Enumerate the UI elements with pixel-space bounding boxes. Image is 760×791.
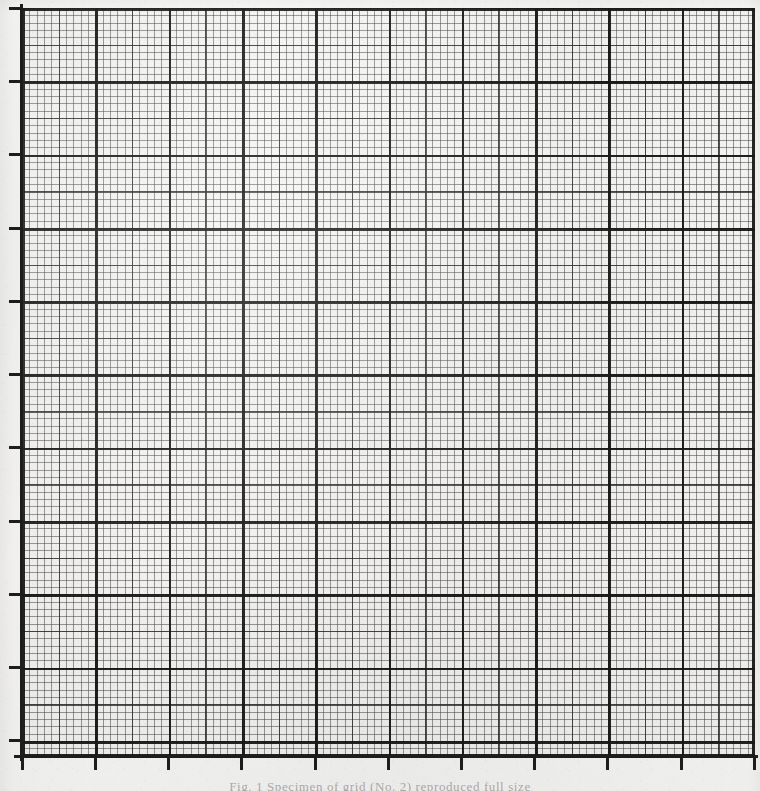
y-axis-tick	[9, 520, 21, 523]
x-axis-tick	[460, 757, 463, 770]
x-axis-tick	[680, 757, 683, 770]
y-axis-tick	[9, 153, 21, 156]
x-axis-tick	[606, 757, 609, 770]
x-axis-tick	[533, 757, 536, 770]
y-axis-tick	[9, 373, 21, 376]
x-axis-tick	[387, 757, 390, 770]
graph-paper-page: Fig. 1 Specimen of grid (No. 2) reproduc…	[0, 0, 760, 791]
y-axis-tick	[9, 446, 21, 449]
x-axis-tick	[753, 757, 756, 770]
x-axis-line	[14, 755, 758, 758]
x-axis-tick	[314, 757, 317, 770]
x-axis-tick	[240, 757, 243, 770]
grid-plot-area	[22, 8, 755, 757]
y-axis-tick	[9, 227, 21, 230]
x-axis-tick	[167, 757, 170, 770]
x-axis-tick	[94, 757, 97, 770]
heavy-gridlines	[22, 8, 755, 757]
grid-right-edge-rule	[752, 8, 755, 757]
y-axis-tick	[9, 300, 21, 303]
y-axis-tick	[9, 7, 21, 10]
y-axis-tick	[9, 666, 21, 669]
x-axis-tick	[21, 757, 24, 770]
figure-caption: Fig. 1 Specimen of grid (No. 2) reproduc…	[0, 779, 760, 791]
y-axis-tick	[9, 739, 21, 742]
y-axis-tick	[9, 80, 21, 83]
y-axis-line	[20, 4, 23, 761]
y-axis-tick	[9, 593, 21, 596]
